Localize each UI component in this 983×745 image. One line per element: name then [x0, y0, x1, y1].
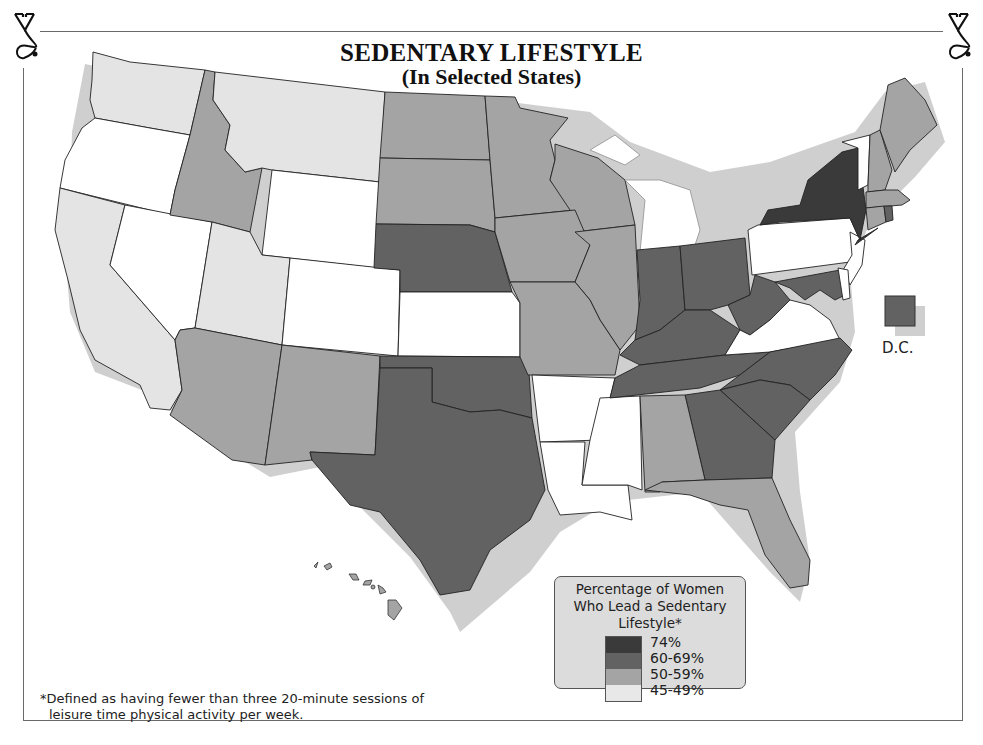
- legend: Percentage of Women Who Lead a Sedentary…: [554, 576, 746, 689]
- legend-label: 45-49%: [650, 682, 704, 698]
- legend-title-line: Percentage of Women: [555, 581, 745, 598]
- state-massachusetts: [866, 190, 910, 208]
- footnote-line: leisure time physical activity per week.: [40, 707, 424, 723]
- legend-label: 50-59%: [650, 666, 704, 682]
- swatch-74: [606, 637, 641, 653]
- state-montana: [213, 72, 385, 182]
- us-map: [0, 0, 983, 745]
- state-south-dakota: [376, 158, 495, 232]
- state-colorado: [282, 258, 400, 356]
- state-kansas: [398, 292, 520, 357]
- state-rhode-island: [884, 206, 893, 222]
- state-ohio: [680, 238, 750, 310]
- swatch-45-49: [606, 685, 641, 701]
- swatch-60-69: [606, 653, 641, 669]
- dc-box: [885, 296, 915, 326]
- state-hawaii: [314, 562, 402, 620]
- legend-title-line: Who Lead a Sedentary: [555, 598, 745, 615]
- legend-title: Percentage of Women Who Lead a Sedentary…: [555, 581, 745, 632]
- state-iowa: [495, 210, 590, 282]
- state-arizona: [170, 328, 282, 465]
- legend-label: 60-69%: [650, 650, 704, 666]
- footnote-line: *Defined as having fewer than three 20-m…: [40, 691, 424, 707]
- legend-title-line: Lifestyle*: [555, 615, 745, 632]
- legend-label: 74%: [650, 634, 704, 650]
- footnote: *Defined as having fewer than three 20-m…: [40, 691, 424, 723]
- state-connecticut: [866, 206, 886, 230]
- state-north-dakota: [380, 92, 490, 160]
- legend-swatches: [605, 636, 642, 702]
- dc-label: D.C.: [882, 339, 914, 357]
- swatch-50-59: [606, 669, 641, 685]
- state-wyoming: [262, 170, 380, 268]
- legend-labels: 74% 60-69% 50-59% 45-49%: [650, 634, 704, 698]
- state-new-mexico: [265, 345, 380, 465]
